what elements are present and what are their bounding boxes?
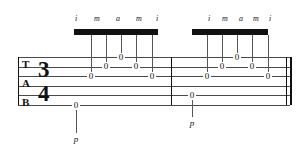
fingering-letter-m-2-3: m [251,15,261,23]
fret-number-2-6: 0 [264,72,272,81]
fingering-letter-i-2-0: i [204,15,214,23]
note-stem-2-6 [268,35,269,76]
notation-render-layer: TAB34imami000000pimami000000p [0,0,299,154]
barline-end-thick [290,57,292,105]
beam-measure-2 [192,29,268,35]
thumb-letter-p-measure-2: p [187,119,197,128]
fret-number-2-3: 0 [218,62,226,71]
fingering-letter-i-2-4: i [265,15,275,23]
barline-end-thin [286,57,287,105]
fret-number-2-5: 0 [248,62,256,71]
fret-number-2-2: 0 [203,72,211,81]
fingering-letter-a-2-2: a [236,15,246,23]
fingering-letter-m-2-1: m [220,15,230,23]
fret-number-2-4: 0 [233,53,241,62]
measure-2: imami000000p [0,0,299,154]
fret-number-2-1: 0 [188,91,196,100]
note-stem-2-2 [207,35,208,76]
tablature-sheet: TAB34imami000000pimami000000p [0,0,299,154]
